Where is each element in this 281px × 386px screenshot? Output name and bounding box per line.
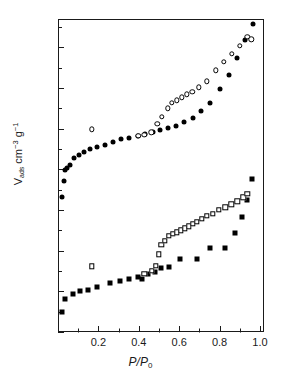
- data-point-filled-square: [85, 287, 90, 292]
- data-point-filled-circle: [199, 108, 204, 113]
- y-tick-minor: [58, 271, 62, 272]
- data-point-filled-circle: [110, 140, 115, 145]
- y-tick-major: [58, 251, 64, 252]
- data-point-filled-square: [166, 265, 171, 270]
- data-point-filled-square: [222, 245, 227, 250]
- data-point-filled-square: [59, 310, 64, 315]
- data-point-filled-circle: [190, 115, 195, 120]
- y-tick-minor: [58, 230, 62, 231]
- x-tick-major: [179, 326, 180, 332]
- x-tick-label: 0.6: [172, 336, 187, 348]
- y-axis-title-text: Vads cm−3 g−1: [12, 123, 24, 186]
- data-point-open-square: [245, 191, 250, 196]
- data-point-filled-square: [250, 176, 255, 181]
- y-axis-title: Vads cm−3 g−1: [12, 89, 24, 219]
- y-tick-major: [58, 129, 64, 130]
- data-point-filled-circle: [127, 135, 132, 140]
- data-point-filled-square: [207, 245, 212, 250]
- x-tick-minor: [199, 329, 200, 333]
- data-point-filled-square: [94, 284, 99, 289]
- x-tick-minor: [119, 329, 120, 333]
- x-tick-minor: [78, 329, 79, 333]
- data-point-filled-square: [240, 214, 245, 219]
- data-point-filled-circle: [226, 73, 231, 78]
- data-point-open-square: [216, 207, 221, 212]
- data-point-filled-circle: [250, 22, 255, 27]
- y-tick-minor: [58, 190, 62, 191]
- y-tick-minor: [58, 27, 62, 28]
- data-point-filled-square: [127, 276, 132, 281]
- data-point-filled-circle: [234, 56, 239, 61]
- data-point-open-square: [235, 199, 240, 204]
- x-tick-minor: [240, 329, 241, 333]
- data-point-filled-circle: [71, 156, 76, 161]
- x-tick-major: [139, 326, 140, 332]
- data-point-filled-circle: [174, 124, 179, 129]
- data-point-filled-square: [108, 280, 113, 285]
- y-tick-major: [58, 47, 64, 48]
- data-point-filled-circle: [76, 152, 81, 157]
- data-point-filled-square: [178, 256, 183, 261]
- data-point-filled-square: [117, 278, 122, 283]
- y-tick-major: [58, 88, 64, 89]
- data-point-filled-square: [194, 256, 199, 261]
- data-point-filled-circle: [60, 194, 65, 199]
- y-tick-major: [58, 291, 64, 292]
- data-point-filled-circle: [82, 149, 87, 154]
- x-tick-label: 0.8: [212, 336, 227, 348]
- x-tick-major: [98, 326, 99, 332]
- data-point-filled-square: [159, 265, 164, 270]
- data-point-filled-circle: [182, 120, 187, 125]
- y-tick-minor: [58, 68, 62, 69]
- data-point-filled-circle: [88, 147, 93, 152]
- x-tick-major: [260, 326, 261, 332]
- data-point-filled-circle: [67, 163, 72, 168]
- y-tick-minor: [58, 149, 62, 150]
- data-point-open-square: [162, 238, 167, 243]
- data-point-filled-square: [63, 296, 68, 301]
- data-point-filled-circle: [102, 143, 107, 148]
- x-tick-label: 0.4: [131, 336, 146, 348]
- data-point-filled-square: [140, 276, 145, 281]
- data-point-filled-circle: [119, 137, 124, 142]
- data-point-filled-circle: [217, 86, 222, 91]
- data-point-filled-circle: [208, 100, 213, 105]
- data-point-filled-circle: [166, 125, 171, 130]
- data-point-open-square: [223, 205, 228, 210]
- data-point-open-square: [149, 268, 154, 273]
- data-point-filled-square: [70, 292, 75, 297]
- x-tick-minor: [159, 329, 160, 333]
- data-point-open-square: [229, 202, 234, 207]
- data-point-open-square: [156, 251, 161, 256]
- data-point-open-square: [89, 264, 94, 269]
- x-tick-label: 1.0: [252, 336, 267, 348]
- plot-area: [58, 19, 264, 332]
- data-point-open-square: [210, 211, 215, 216]
- data-point-filled-circle: [61, 178, 66, 183]
- data-point-open-square: [142, 271, 147, 276]
- y-tick-major: [58, 210, 64, 211]
- data-point-filled-square: [77, 289, 82, 294]
- adsorption-isotherm-chart: 020406080100120140 0.20.40.60.81.0 Vads …: [0, 0, 281, 386]
- x-tick-label: 0.2: [91, 336, 106, 348]
- y-tick-major: [58, 332, 64, 333]
- x-tick-major: [220, 326, 221, 332]
- data-point-filled-square: [233, 230, 238, 235]
- data-point-open-square: [153, 263, 158, 268]
- y-tick-minor: [58, 108, 62, 109]
- data-point-filled-circle: [95, 145, 100, 150]
- x-axis-title: P/P0: [0, 355, 281, 369]
- data-point-filled-circle: [157, 128, 162, 133]
